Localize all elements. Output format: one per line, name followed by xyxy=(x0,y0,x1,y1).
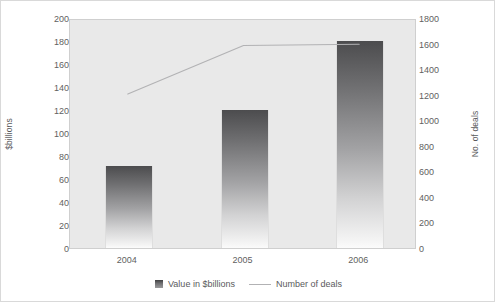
plot-area xyxy=(69,19,416,249)
x-axis-label-2006: 2006 xyxy=(323,255,393,265)
bar-swatch-icon xyxy=(155,280,163,288)
y-axis-right-tick: 1000 xyxy=(419,116,439,126)
y-axis-right-tick: 600 xyxy=(419,167,434,177)
x-axis-label-2005: 2005 xyxy=(208,255,278,265)
y-axis-left-tick: 20 xyxy=(59,221,69,231)
line-series-number-of-deals xyxy=(70,20,416,249)
y-axis-left-tick: 140 xyxy=(54,83,69,93)
y-axis-left-title: $billions xyxy=(4,104,14,164)
legend-entry-deals: Number of deals xyxy=(249,279,342,289)
chart-legend: Value in $billions Number of deals xyxy=(1,279,495,289)
x-axis-labels: 2004 2005 2006 xyxy=(69,255,416,269)
y-axis-left-tick: 180 xyxy=(54,37,69,47)
chart-figure: $billions No. of deals 200 180 160 140 1… xyxy=(0,0,495,302)
y-axis-right-tick: 400 xyxy=(419,193,434,203)
y-axis-right-tick: 0 xyxy=(419,244,424,254)
y-axis-right-tick: 1200 xyxy=(419,91,439,101)
y-axis-right-tick: 200 xyxy=(419,218,434,228)
line-swatch-icon xyxy=(249,284,271,285)
y-axis-right-tick: 1600 xyxy=(419,40,439,50)
y-axis-right-tick: 1800 xyxy=(419,14,439,24)
legend-label-deals: Number of deals xyxy=(276,279,342,289)
y-axis-right-tick: 800 xyxy=(419,142,434,152)
plot-inner xyxy=(70,20,415,248)
y-axis-right-ticks: 1800 1600 1400 1200 1000 800 600 400 200… xyxy=(419,1,453,302)
legend-entry-value: Value in $billions xyxy=(155,279,235,289)
x-axis-label-2004: 2004 xyxy=(92,255,162,265)
y-axis-left-tick: 200 xyxy=(54,14,69,24)
y-axis-left-tick: 160 xyxy=(54,60,69,70)
legend-label-value: Value in $billions xyxy=(168,279,235,289)
y-axis-left-tick: 80 xyxy=(59,152,69,162)
y-axis-left-tick: 60 xyxy=(59,175,69,185)
y-axis-right-title: No. of deals xyxy=(470,104,480,164)
y-axis-left-ticks: 200 180 160 140 120 100 80 60 40 20 0 xyxy=(35,1,69,302)
y-axis-left-tick: 120 xyxy=(54,106,69,116)
y-axis-left-tick: 100 xyxy=(54,129,69,139)
y-axis-right-tick: 1400 xyxy=(419,65,439,75)
y-axis-left-tick: 40 xyxy=(59,198,69,208)
